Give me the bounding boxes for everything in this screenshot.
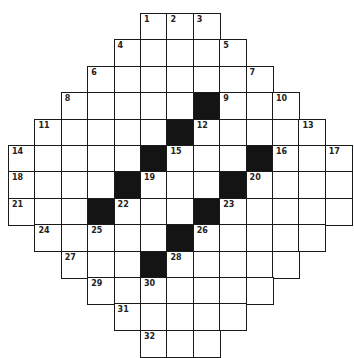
crossword-cell[interactable]: [298, 171, 326, 199]
crossword-cell[interactable]: 23: [219, 198, 247, 226]
crossword-cell[interactable]: [219, 145, 247, 173]
crossword-cell[interactable]: [140, 119, 168, 147]
crossword-cell[interactable]: 32: [140, 330, 168, 358]
crossword-cell[interactable]: [219, 119, 247, 147]
crossword-cell[interactable]: 13: [298, 119, 326, 147]
crossword-cell[interactable]: [193, 303, 221, 331]
crossword-cell[interactable]: 16: [272, 145, 300, 173]
crossword-cell[interactable]: [193, 145, 221, 173]
crossword-cell[interactable]: [166, 303, 194, 331]
crossword-cell[interactable]: [140, 66, 168, 94]
crossword-cell[interactable]: [114, 277, 142, 305]
crossword-cell[interactable]: [246, 119, 274, 147]
crossword-cell[interactable]: [193, 277, 221, 305]
crossword-cell[interactable]: [298, 145, 326, 173]
crossword-cell[interactable]: 1: [140, 13, 168, 41]
crossword-cell[interactable]: [246, 224, 274, 252]
crossword-cell[interactable]: 26: [193, 224, 221, 252]
crossword-cell[interactable]: [114, 119, 142, 147]
crossword-cell[interactable]: [61, 171, 89, 199]
crossword-cell[interactable]: [140, 92, 168, 120]
crossword-cell[interactable]: [87, 119, 115, 147]
crossword-cell[interactable]: 30: [140, 277, 168, 305]
crossword-cell[interactable]: [219, 251, 247, 279]
crossword-cell[interactable]: [246, 277, 274, 305]
crossword-cell[interactable]: [87, 171, 115, 199]
crossword-cell[interactable]: [325, 198, 353, 226]
crossword-cell[interactable]: 12: [193, 119, 221, 147]
crossword-cell[interactable]: 4: [114, 39, 142, 67]
crossword-cell[interactable]: [298, 198, 326, 226]
crossword-cell[interactable]: 3: [193, 13, 221, 41]
crossword-cell[interactable]: [219, 224, 247, 252]
crossword-cell[interactable]: [246, 198, 274, 226]
crossword-cell[interactable]: [272, 171, 300, 199]
crossword-cell[interactable]: [166, 198, 194, 226]
crossword-cell[interactable]: [114, 66, 142, 94]
crossword-cell[interactable]: 10: [272, 92, 300, 120]
crossword-cell[interactable]: [114, 92, 142, 120]
crossword-cell[interactable]: [246, 251, 274, 279]
crossword-cell[interactable]: [272, 224, 300, 252]
crossword-cell[interactable]: 20: [246, 171, 274, 199]
crossword-cell[interactable]: [166, 277, 194, 305]
crossword-cell[interactable]: [87, 92, 115, 120]
crossword-cell[interactable]: [61, 119, 89, 147]
crossword-cell[interactable]: 27: [61, 251, 89, 279]
crossword-cell[interactable]: [166, 171, 194, 199]
crossword-cell[interactable]: [272, 251, 300, 279]
crossword-cell[interactable]: 7: [246, 66, 274, 94]
crossword-cell[interactable]: 22: [114, 198, 142, 226]
crossword-cell[interactable]: 28: [166, 251, 194, 279]
crossword-cell[interactable]: [219, 303, 247, 331]
crossword-cell[interactable]: [34, 145, 62, 173]
crossword-cell[interactable]: [219, 66, 247, 94]
crossword-cell[interactable]: [114, 251, 142, 279]
crossword-cell[interactable]: 18: [8, 171, 36, 199]
crossword-cell[interactable]: [34, 198, 62, 226]
crossword-cell[interactable]: 11: [34, 119, 62, 147]
crossword-cell[interactable]: 21: [8, 198, 36, 226]
crossword-cell[interactable]: [166, 92, 194, 120]
crossword-cell[interactable]: 29: [87, 277, 115, 305]
crossword-cell[interactable]: [193, 171, 221, 199]
crossword-cell[interactable]: [61, 198, 89, 226]
crossword-cell[interactable]: 24: [34, 224, 62, 252]
crossword-cell[interactable]: [114, 145, 142, 173]
crossword-cell[interactable]: [140, 198, 168, 226]
crossword-cell[interactable]: [246, 92, 274, 120]
crossword-cell[interactable]: 5: [219, 39, 247, 67]
crossword-cell[interactable]: [193, 39, 221, 67]
crossword-cell[interactable]: [140, 303, 168, 331]
crossword-cell[interactable]: 14: [8, 145, 36, 173]
crossword-cell[interactable]: 31: [114, 303, 142, 331]
crossword-cell[interactable]: [87, 251, 115, 279]
crossword-cell[interactable]: 19: [140, 171, 168, 199]
crossword-cell[interactable]: [193, 330, 221, 358]
crossword-cell[interactable]: [166, 330, 194, 358]
crossword-cell[interactable]: [87, 145, 115, 173]
clue-number: 28: [170, 254, 181, 262]
crossword-cell[interactable]: [114, 224, 142, 252]
crossword-cell[interactable]: 15: [166, 145, 194, 173]
crossword-cell[interactable]: [140, 39, 168, 67]
crossword-cell[interactable]: [61, 145, 89, 173]
crossword-cell[interactable]: [325, 171, 353, 199]
crossword-cell[interactable]: [61, 224, 89, 252]
crossword-cell[interactable]: 8: [61, 92, 89, 120]
crossword-cell[interactable]: [166, 66, 194, 94]
crossword-cell[interactable]: 2: [166, 13, 194, 41]
crossword-cell[interactable]: [272, 198, 300, 226]
crossword-cell[interactable]: [166, 39, 194, 67]
crossword-cell[interactable]: [140, 224, 168, 252]
crossword-cell[interactable]: [34, 171, 62, 199]
crossword-cell[interactable]: 6: [87, 66, 115, 94]
crossword-cell[interactable]: [298, 224, 326, 252]
crossword-cell[interactable]: [193, 66, 221, 94]
crossword-cell[interactable]: [219, 277, 247, 305]
crossword-cell[interactable]: 17: [325, 145, 353, 173]
crossword-cell[interactable]: 9: [219, 92, 247, 120]
crossword-cell[interactable]: [193, 251, 221, 279]
crossword-cell[interactable]: 25: [87, 224, 115, 252]
crossword-cell[interactable]: [272, 119, 300, 147]
